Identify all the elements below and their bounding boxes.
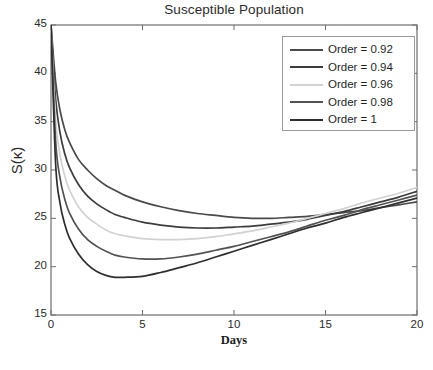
x-tick-label: 5 (123, 318, 163, 330)
legend-swatch-line-icon (290, 119, 323, 121)
legend-item[interactable]: Order = 1 (283, 111, 414, 129)
x-tick-label: 10 (214, 318, 254, 330)
legend-swatch-line-icon (290, 49, 323, 51)
legend-item[interactable]: Order = 0.98 (283, 94, 414, 112)
y-tick-label: 30 (21, 162, 47, 174)
legend-swatch-line-icon (290, 66, 323, 68)
x-tick-label: 20 (397, 318, 433, 330)
legend-label: Order = 1 (328, 114, 377, 126)
legend-item[interactable]: Order = 0.96 (283, 76, 414, 94)
y-tick-label: 35 (21, 114, 47, 126)
figure-canvas: Susceptible Population 15202530354045 05… (0, 0, 433, 370)
legend-swatch-line-icon (290, 84, 323, 86)
x-tick-label: 15 (306, 318, 346, 330)
x-tick-label: 0 (31, 318, 71, 330)
y-tick-label: 40 (21, 65, 47, 77)
y-tick-label: 20 (21, 259, 47, 271)
legend: Order = 0.92Order = 0.94Order = 0.96Orde… (282, 36, 415, 131)
legend-label: Order = 0.98 (328, 97, 393, 109)
y-tick-label: 45 (21, 17, 47, 29)
legend-label: Order = 0.94 (328, 62, 393, 74)
legend-label: Order = 0.96 (328, 79, 393, 91)
legend-item[interactable]: Order = 0.94 (283, 59, 414, 77)
legend-swatch-line-icon (290, 101, 323, 103)
legend-item[interactable]: Order = 0.92 (283, 41, 414, 59)
y-tick-label: 25 (21, 210, 47, 222)
legend-label: Order = 0.92 (328, 44, 393, 56)
y-axis-label: S(κ) (8, 131, 25, 191)
x-axis-label: Days (51, 333, 417, 348)
